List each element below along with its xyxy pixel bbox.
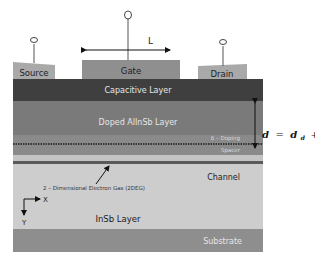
source-terminal-icon [31,38,38,43]
eq-plus: + [311,129,315,140]
gate-length-label: L [148,36,153,46]
eq-equals: = [275,129,283,140]
doped-layer-label: Doped AlInSb Layer [99,118,179,127]
source-label: Source [19,68,48,78]
eq-lhs: d [262,129,269,140]
delta-doping-label: δ – Doping [211,135,240,142]
spacer-label: Spacer [221,147,241,154]
channel-label: Channel [207,173,240,182]
x-axis-label: X [43,196,48,204]
drain-terminal-icon [220,40,227,45]
thickness-equation: d = d d + d i [262,129,315,142]
eq-term1: d [290,129,297,140]
gate-label: Gate [121,66,141,76]
drain-label: Drain [211,69,234,79]
barrier-thin-band [13,155,263,161]
hemt-cross-section-diagram: Source Gate Drain L Capacitive Layer Dop… [0,0,315,263]
substrate-label: Substrate [203,237,242,246]
y-axis-label: Y [21,219,27,227]
insb-layer-label: InSb Layer [95,214,141,224]
eq-term1-sub: d [301,134,306,141]
twodeg-line [13,161,263,164]
gate-terminal-icon [125,11,132,19]
twodeg-label: 2 – Dimensional Electron Gas (2DEG) [43,185,145,191]
capacitive-layer-label: Capacitive Layer [105,86,173,95]
